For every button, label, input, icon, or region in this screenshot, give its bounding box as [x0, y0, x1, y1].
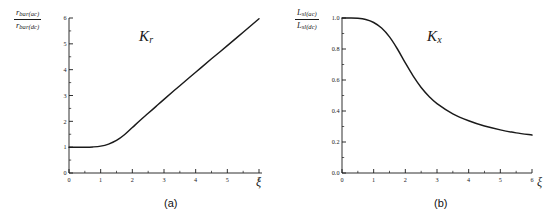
x-tick-label: 3: [162, 176, 165, 183]
curve-label-kr-main: K: [139, 28, 149, 44]
x-tick-label: 1: [372, 176, 375, 183]
x-tick-label: 2: [131, 176, 134, 183]
y-tick-label: 0.6: [332, 76, 340, 83]
y-tick-label: 4: [63, 66, 66, 73]
caption-a: (a): [164, 197, 177, 209]
caption-b: (b): [434, 197, 447, 209]
plot-a-ticks: [69, 18, 259, 173]
y-tick-label: 2: [63, 118, 66, 125]
x-tick-label: 4: [467, 176, 470, 183]
curve-label-kr-sub: r: [149, 34, 153, 45]
y-tick-label: 3: [63, 92, 66, 99]
y-tick-label: 0.2: [332, 138, 340, 145]
curve-label-kx-main: K: [427, 28, 437, 44]
x-tick-label: 6: [530, 176, 533, 183]
figure-skin-effect-factors: rbar(ac) rbar(dc) 01234560123456 Kr ξ (a…: [0, 0, 559, 223]
y-tick-label: 0.0: [332, 169, 340, 176]
y-tick-label: 0: [63, 169, 66, 176]
x-axis-label-b: ξ: [537, 175, 542, 190]
x-axis-label-a: ξ: [256, 175, 261, 190]
curve-kr: [69, 19, 259, 147]
x-tick-label: 1: [99, 176, 102, 183]
x-tick-label: 0: [340, 176, 343, 183]
y-tick-label: 1: [63, 143, 66, 150]
panel-b: Lsl(ac) Lsl(dc) 01234560.00.20.40.60.81.…: [280, 0, 559, 223]
y-tick-label: 0.4: [332, 107, 340, 114]
x-tick-label: 4: [194, 176, 197, 183]
curve-label-kr: Kr: [139, 28, 153, 45]
y-tick-label: 1.0: [332, 14, 340, 21]
x-tick-label: 5: [499, 176, 502, 183]
curve-label-kx-sub: x: [437, 34, 442, 45]
y-tick-label: 0.8: [332, 45, 340, 52]
x-tick-label: 3: [435, 176, 438, 183]
x-tick-label: 5: [226, 176, 229, 183]
x-tick-label: 2: [404, 176, 407, 183]
plot-a-tick-labels: 01234560123456: [63, 14, 260, 183]
x-tick-label: 0: [67, 176, 70, 183]
curve-label-kx: Kx: [427, 28, 442, 45]
y-tick-label: 6: [63, 14, 66, 21]
plot-b-svg: 01234560.00.20.40.60.81.0: [280, 0, 559, 223]
panel-a: rbar(ac) rbar(dc) 01234560123456 Kr ξ (a…: [0, 0, 279, 223]
y-tick-label: 5: [63, 40, 66, 47]
